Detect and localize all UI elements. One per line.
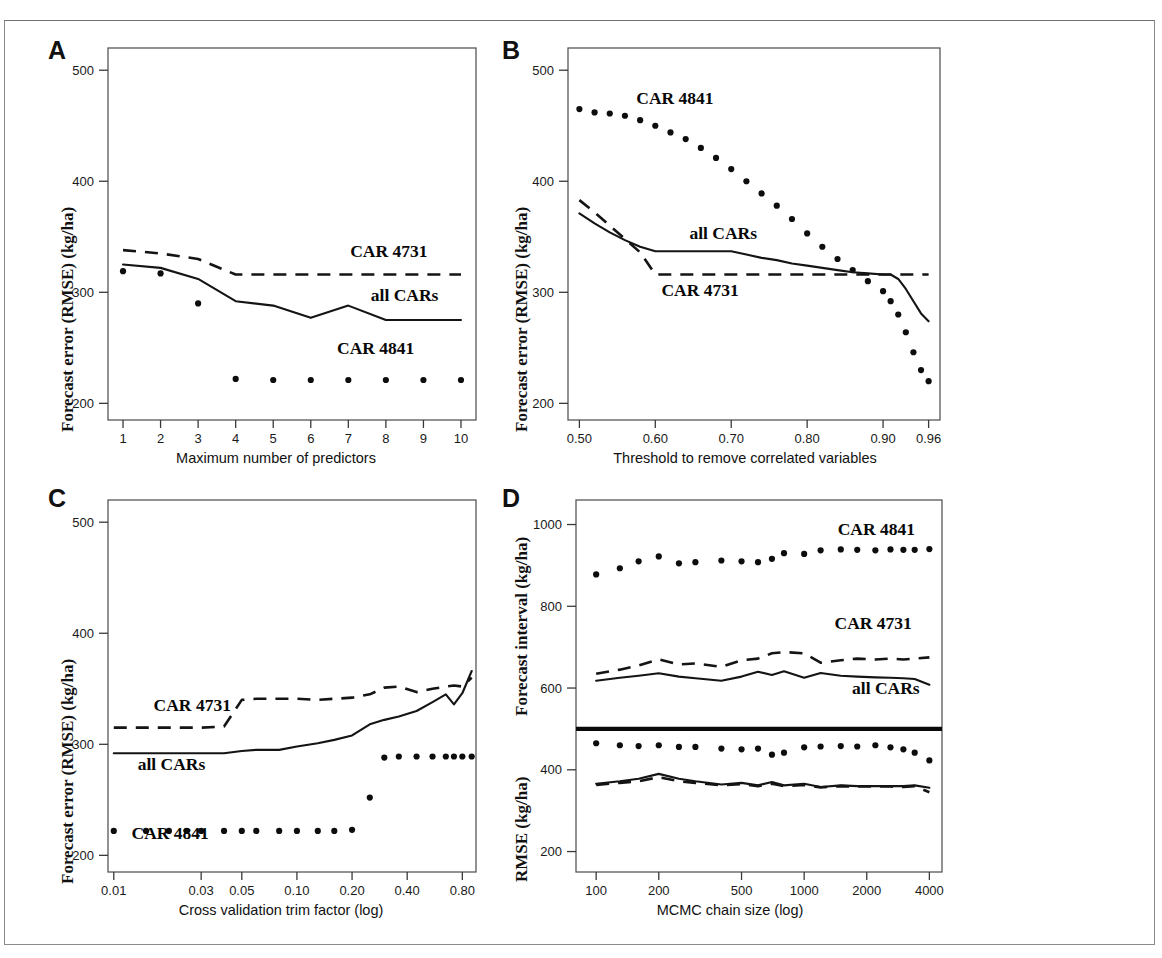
figure-root: A Forecast error (RMSE) (kg/ha) 20030040… — [0, 0, 1162, 958]
svg-text:5: 5 — [270, 431, 277, 446]
svg-text:100: 100 — [585, 883, 607, 898]
svg-text:0.03: 0.03 — [189, 883, 214, 898]
svg-text:600: 600 — [540, 681, 562, 696]
svg-text:500: 500 — [72, 63, 94, 78]
panel-a-y-axis-title: Forecast error (RMSE) (kg/ha) — [58, 207, 78, 432]
svg-text:0.80: 0.80 — [794, 431, 819, 446]
panel-d: D Forecast interval (kg/ha) RMSE (kg/ha)… — [490, 486, 960, 936]
svg-text:0.50: 0.50 — [567, 431, 592, 446]
svg-text:8: 8 — [382, 431, 389, 446]
svg-text:400: 400 — [72, 626, 94, 641]
svg-text:CAR 4841: CAR 4841 — [838, 519, 915, 539]
svg-text:0.10: 0.10 — [284, 883, 309, 898]
panel-d-x-axis-title: MCMC chain size (log) — [560, 902, 900, 918]
panel-b-x-axis-title: Threshold to remove correlated variables — [545, 450, 945, 466]
svg-text:0.80: 0.80 — [450, 883, 475, 898]
panel-a-plot: 20030040050012345678910CAR 4731all CARsC… — [36, 36, 496, 456]
svg-text:300: 300 — [532, 285, 554, 300]
panel-a-x-axis-title: Maximum number of predictors — [96, 450, 456, 466]
svg-text:CAR 4841: CAR 4841 — [337, 338, 414, 358]
svg-text:all CARs: all CARs — [852, 678, 920, 698]
svg-text:all CARs: all CARs — [371, 285, 439, 305]
svg-text:CAR 4841: CAR 4841 — [132, 823, 209, 843]
panel-b-y-axis-title: Forecast error (RMSE) (kg/ha) — [512, 207, 532, 432]
svg-text:0.20: 0.20 — [339, 883, 364, 898]
svg-text:0.90: 0.90 — [870, 431, 895, 446]
svg-text:CAR 4731: CAR 4731 — [661, 280, 738, 300]
svg-text:1: 1 — [119, 431, 126, 446]
svg-text:500: 500 — [72, 515, 94, 530]
svg-text:4: 4 — [232, 431, 239, 446]
svg-text:1000: 1000 — [533, 517, 562, 532]
panel-d-y-axis-title-upper: Forecast interval (kg/ha) — [512, 537, 532, 716]
svg-text:0.05: 0.05 — [229, 883, 254, 898]
panel-a: A Forecast error (RMSE) (kg/ha) 20030040… — [36, 36, 496, 481]
panel-c-x-axis-title: Cross validation trim factor (log) — [96, 902, 466, 918]
svg-text:2: 2 — [157, 431, 164, 446]
svg-text:0.60: 0.60 — [643, 431, 668, 446]
svg-text:800: 800 — [540, 599, 562, 614]
panel-b-plot: 2003004005000.500.600.700.800.900.96CAR … — [490, 36, 960, 456]
svg-text:3: 3 — [195, 431, 202, 446]
panel-b-letter: B — [502, 38, 520, 63]
svg-text:400: 400 — [540, 762, 562, 777]
svg-text:10: 10 — [454, 431, 468, 446]
svg-text:1000: 1000 — [790, 883, 819, 898]
panel-d-y-axis-title-lower: RMSE (kg/ha) — [512, 777, 532, 882]
svg-text:0.01: 0.01 — [101, 883, 126, 898]
svg-text:CAR 4731: CAR 4731 — [350, 241, 427, 261]
panel-d-plot: 2004006008001000100200500100020004000CAR… — [490, 486, 960, 908]
svg-text:400: 400 — [72, 174, 94, 189]
panel-c: C Forecast error (RMSE) (kg/ha) 20030040… — [36, 486, 496, 936]
svg-text:400: 400 — [532, 174, 554, 189]
svg-text:all CARs: all CARs — [689, 223, 757, 243]
svg-text:200: 200 — [532, 396, 554, 411]
panel-a-letter: A — [48, 38, 66, 63]
panel-c-y-axis-title: Forecast error (RMSE) (kg/ha) — [58, 659, 78, 884]
svg-text:2000: 2000 — [852, 883, 881, 898]
svg-text:7: 7 — [345, 431, 352, 446]
svg-text:CAR 4731: CAR 4731 — [835, 613, 912, 633]
svg-text:9: 9 — [420, 431, 427, 446]
svg-text:200: 200 — [648, 883, 670, 898]
panel-b: B Forecast error (RMSE) (kg/ha) 20030040… — [490, 36, 960, 481]
svg-text:500: 500 — [731, 883, 753, 898]
svg-text:all CARs: all CARs — [138, 754, 206, 774]
svg-text:500: 500 — [532, 63, 554, 78]
panel-c-letter: C — [48, 486, 66, 511]
svg-text:0.40: 0.40 — [395, 883, 420, 898]
svg-text:CAR 4841: CAR 4841 — [636, 88, 713, 108]
svg-text:CAR 4731: CAR 4731 — [154, 695, 231, 715]
svg-text:6: 6 — [307, 431, 314, 446]
panel-d-letter: D — [502, 486, 520, 511]
svg-text:200: 200 — [540, 844, 562, 859]
svg-text:0.96: 0.96 — [916, 431, 941, 446]
panel-c-plot: 2003004005000.010.030.050.100.200.400.80… — [36, 486, 496, 908]
svg-text:0.70: 0.70 — [719, 431, 744, 446]
svg-text:4000: 4000 — [915, 883, 944, 898]
